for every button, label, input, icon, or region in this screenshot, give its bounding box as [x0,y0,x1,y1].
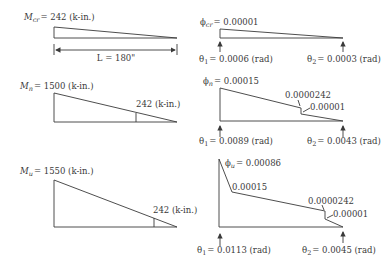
mn-label: Mn= 1500 (k-in.) [19,81,93,93]
mcr-moment-shape [54,27,177,38]
curvature-diagram-cracking: ϕcr= 0.00001 θ1= 0.0006 (rad) θ2= 0.0003… [199,17,381,66]
phi-u-curvature-shape [219,159,343,227]
theta1-u-label: θ1= 0.0113 (rad) [197,245,271,257]
phi-n-step-upper-label: 0.0000242 [285,90,331,100]
theta1-cr-label: θ1= 0.0006 (rad) [199,54,273,66]
mu-crack-moment-label: 242 (k-in.) [153,205,197,215]
span-length-label: L = 180" [97,53,135,63]
mu-label: Mu= 1550 (k-in.) [19,166,93,178]
step-lower-leader [303,108,310,112]
moment-diagram-yield: Mn= 1500 (k-in.) 242 (k-in.) [19,81,180,122]
mcr-label: Mcr= 242 (k-in.) [23,12,95,24]
theta2-cr-label: θ2= 0.0003 (rad) [307,54,381,66]
phi-u-knee-label: 0.00015 [232,182,267,192]
step-upper-leader [298,100,300,106]
curvature-diagram-yield: ϕn= 0.00015 0.0000242 0.00001 θ1= 0.0089… [199,76,381,148]
phi-cr-label: ϕcr= 0.00001 [200,17,259,29]
moment-curvature-diagram: Mcr= 242 (k-in.) L = 180" Mn= 1500 (k-in… [0,0,388,269]
moment-diagram-cracking: Mcr= 242 (k-in.) L = 180" [23,12,177,63]
theta2-u-label: θ2= 0.0045 (rad) [302,245,376,257]
phi-u-label: ϕu= 0.00086 [225,158,281,170]
phi-u-step-upper-label: 0.0000242 [308,196,354,206]
moment-diagram-ultimate: Mu= 1550 (k-in.) 242 (k-in.) [19,166,197,227]
mu-moment-shape [54,180,177,227]
theta2-n-label: θ2= 0.0043 (rad) [307,136,381,148]
phi-n-step-lower-label: 0.00001 [310,102,345,112]
phi-cr-curvature-shape [220,29,343,38]
theta1-n-label: θ1= 0.0089 (rad) [199,136,273,148]
mn-crack-moment-label: 242 (k-in.) [136,99,180,109]
phi-u-step-lower-label: 0.00001 [333,209,368,219]
curvature-diagram-ultimate: ϕu= 0.00086 0.00015 0.0000242 0.00001 θ1… [197,158,376,257]
phi-n-label: ϕn= 0.00015 [203,76,259,88]
